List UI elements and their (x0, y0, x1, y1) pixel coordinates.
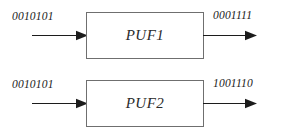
puf-row-puf1: 0010101 PUF1 0001111 (0, 0, 290, 68)
input-arrow-puf2 (32, 98, 88, 109)
puf-diagram: 0010101 PUF1 0001111 0010101 (0, 0, 290, 136)
output-response-label-puf1: 0001111 (213, 10, 252, 22)
input-challenge-label-puf1: 0010101 (12, 11, 54, 23)
puf-block-puf2: PUF2 (86, 80, 204, 127)
puf-block-label-puf2: PUF2 (87, 96, 203, 111)
output-response-label-puf2: 1001110 (213, 78, 253, 90)
puf-row-puf2: 0010101 PUF2 1001110 (0, 68, 290, 136)
input-challenge-label-puf2: 0010101 (12, 79, 54, 91)
input-arrow-puf1 (32, 30, 88, 41)
puf-block-label-puf1: PUF1 (87, 28, 203, 43)
output-arrow-puf1 (203, 30, 257, 41)
output-arrow-puf2 (203, 98, 257, 109)
puf-block-puf1: PUF1 (86, 12, 204, 59)
